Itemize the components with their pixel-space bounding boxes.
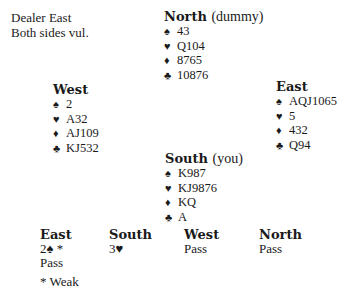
diamond-icon: ♦ <box>165 195 178 210</box>
heart-icon: ♥ <box>53 112 66 127</box>
suit-row-spades: ♠2 <box>53 97 99 112</box>
cards: 432 <box>289 123 308 137</box>
auction-column-west: West Pass <box>184 227 219 256</box>
cards: Q104 <box>177 39 205 53</box>
club-icon: ♣ <box>165 210 178 225</box>
suit-row-clubs: ♣A <box>165 210 243 225</box>
suit-row-hearts: ♥KJ9876 <box>165 181 243 196</box>
cards: 10876 <box>177 68 208 82</box>
auction-call: Pass <box>259 242 302 256</box>
hand-east: East ♠AQJ1065 ♥5 ♦432 ♣Q94 <box>276 79 337 152</box>
cards: K987 <box>178 166 206 180</box>
spade-icon: ♠ <box>276 94 289 109</box>
auction-call: 3♥ <box>109 242 152 256</box>
cards: KJ532 <box>66 141 99 155</box>
player-name: North <box>164 9 207 24</box>
cards: A <box>178 210 187 224</box>
hand-title: North (dummy) <box>164 9 264 24</box>
player-name: South <box>165 151 208 166</box>
club-icon: ♣ <box>276 138 289 153</box>
cards: AQJ1065 <box>289 94 337 108</box>
player-role: (you) <box>213 151 243 166</box>
auction-call: 2♠ * <box>40 242 72 256</box>
suit-row-hearts: ♥Q104 <box>164 39 264 54</box>
hand-title: South (you) <box>165 151 243 166</box>
dealer-label: Dealer East <box>11 10 89 25</box>
cards: 2 <box>66 97 72 111</box>
auction-call: Pass <box>40 256 72 270</box>
hand-west: West ♠2 ♥A32 ♦AJ109 ♣KJ532 <box>53 82 99 155</box>
suit-row-spades: ♠AQJ1065 <box>276 94 337 109</box>
auction-column-south: South 3♥ <box>109 227 152 256</box>
hand-south: South (you) ♠K987 ♥KJ9876 ♦KQ ♣A <box>165 151 243 224</box>
diamond-icon: ♦ <box>53 126 66 141</box>
suit-row-spades: ♠K987 <box>165 166 243 181</box>
suit-row-spades: ♠43 <box>164 24 264 39</box>
club-icon: ♣ <box>53 141 66 156</box>
player-role: (dummy) <box>211 9 263 24</box>
auction-column-north: North Pass <box>259 227 302 256</box>
heart-icon: ♥ <box>164 39 177 54</box>
player-name: East <box>276 79 308 94</box>
heart-icon: ♥ <box>276 109 289 124</box>
heart-icon: ♥ <box>165 181 178 196</box>
auction-header: North <box>259 227 302 242</box>
cards: 5 <box>289 109 295 123</box>
suit-row-clubs: ♣Q94 <box>276 138 337 153</box>
cards: KQ <box>178 195 196 209</box>
spade-icon: ♠ <box>53 97 66 112</box>
suit-row-diamonds: ♦432 <box>276 123 337 138</box>
suit-row-clubs: ♣10876 <box>164 68 264 83</box>
cards: KJ9876 <box>178 181 217 195</box>
diamond-icon: ♦ <box>276 123 289 138</box>
vulnerability-label: Both sides vul. <box>11 25 89 40</box>
cards: A32 <box>66 112 88 126</box>
spade-icon: ♠ <box>165 166 178 181</box>
deal-info: Dealer East Both sides vul. <box>11 10 89 40</box>
suit-row-diamonds: ♦KQ <box>165 195 243 210</box>
auction-call: Pass <box>184 242 219 256</box>
spade-icon: ♠ <box>164 24 177 39</box>
auction-footnote: * Weak <box>40 274 79 290</box>
suit-row-clubs: ♣KJ532 <box>53 141 99 156</box>
auction-header: South <box>109 227 152 242</box>
suit-row-diamonds: ♦8765 <box>164 53 264 68</box>
suit-row-hearts: ♥A32 <box>53 112 99 127</box>
cards: 43 <box>177 24 190 38</box>
club-icon: ♣ <box>164 68 177 83</box>
cards: AJ109 <box>66 126 99 140</box>
suit-row-diamonds: ♦AJ109 <box>53 126 99 141</box>
cards: 8765 <box>177 53 202 67</box>
auction-header: East <box>40 227 72 242</box>
player-name: West <box>53 82 88 97</box>
diamond-icon: ♦ <box>164 53 177 68</box>
hand-title: West <box>53 82 99 97</box>
hand-north: North (dummy) ♠43 ♥Q104 ♦8765 ♣10876 <box>164 9 264 82</box>
cards: Q94 <box>289 138 311 152</box>
auction-header: West <box>184 227 219 242</box>
hand-title: East <box>276 79 337 94</box>
suit-row-hearts: ♥5 <box>276 109 337 124</box>
auction-column-east: East 2♠ * Pass <box>40 227 72 270</box>
